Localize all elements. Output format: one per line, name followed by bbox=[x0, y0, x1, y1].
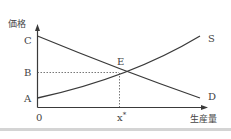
x-axis-label: 生産量 bbox=[190, 113, 217, 124]
label-d: D bbox=[208, 91, 216, 102]
bottom-divider bbox=[0, 128, 231, 131]
demand-curve bbox=[38, 36, 201, 98]
label-s: S bbox=[208, 33, 215, 44]
label-e: E bbox=[117, 56, 124, 67]
y-axis-arrow-icon bbox=[35, 24, 40, 31]
y-axis-label: 価格 bbox=[8, 18, 26, 29]
label-a: A bbox=[23, 93, 32, 104]
x-axis-arrow-icon bbox=[201, 105, 208, 110]
label-b: B bbox=[24, 67, 31, 78]
origin-label: 0 bbox=[36, 112, 42, 123]
label-c: C bbox=[24, 35, 32, 46]
label-x-star: x* bbox=[117, 111, 127, 123]
supply-demand-diagram: 価格 C B A 0 E S D x* 生産量 bbox=[0, 0, 231, 139]
